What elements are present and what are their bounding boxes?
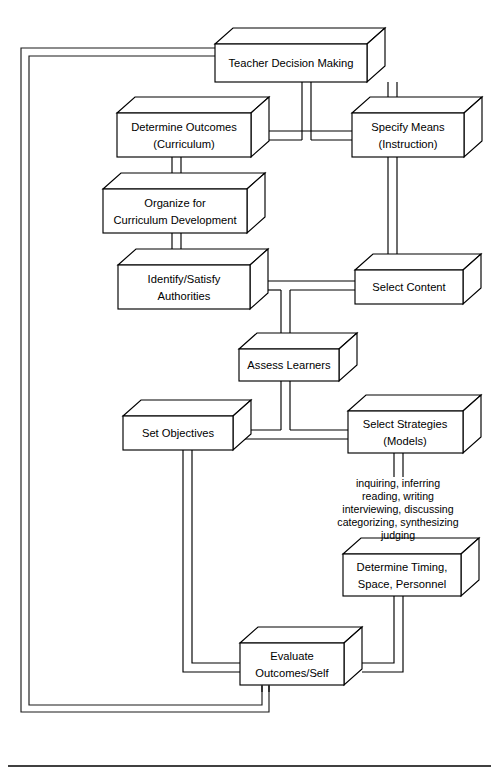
node-select-content[interactable]: Select Content	[355, 254, 481, 304]
node-top-face	[239, 333, 357, 349]
node-front-face	[117, 113, 251, 157]
node-label-line-2: Outcomes/Self	[255, 667, 329, 679]
annotation-line-3: interviewing, discussing	[342, 503, 453, 515]
node-label-line-2: Curriculum Development	[113, 214, 237, 226]
node-teacher-decision-making[interactable]: Teacher Decision Making	[215, 28, 385, 82]
node-top-face	[123, 400, 251, 416]
set-objectives-to-evaluate-connector	[183, 450, 240, 672]
node-evaluate-outcomes[interactable]: Evaluate Outcomes/Self	[240, 627, 362, 685]
assess-learners-down-connector	[281, 381, 290, 430]
node-top-face	[240, 627, 362, 643]
determine-timing-to-evaluate-connector	[362, 596, 403, 672]
node-top-face	[117, 97, 269, 113]
node-top-face	[352, 97, 482, 113]
node-label-line-1: Evaluate	[270, 650, 314, 662]
strategy-examples-annotation: inquiring, inferring reading, writing in…	[337, 477, 458, 541]
node-label-line-2: Space, Personnel	[358, 578, 446, 590]
node-label-line-2: (Models)	[383, 435, 427, 447]
node-label-line-1: Assess Learners	[247, 359, 331, 371]
node-label-line-1: Organize for	[144, 197, 206, 209]
node-label-line-1: Specify Means	[371, 121, 445, 133]
set-objectives-down-line-b	[192, 450, 240, 663]
node-set-objectives[interactable]: Set Objectives	[123, 400, 251, 450]
node-label-line-1: Set Objectives	[142, 427, 215, 439]
node-label-line-2: Authorities	[158, 290, 211, 302]
evaluate-bottom-stub	[262, 685, 269, 692]
node-assess-learners[interactable]: Assess Learners	[239, 333, 357, 381]
node-top-face	[103, 173, 265, 189]
node-label-line-1: Determine Timing,	[357, 561, 448, 573]
flowchart-svg: Teacher Decision Making Determine Outcom…	[0, 0, 499, 783]
flowchart-diagram: Teacher Decision Making Determine Outcom…	[0, 0, 499, 783]
annotation-line-1: inquiring, inferring	[356, 477, 440, 489]
node-determine-outcomes[interactable]: Determine Outcomes (Curriculum)	[117, 97, 269, 157]
node-top-face	[355, 254, 481, 270]
annotation-line-5: judging	[380, 529, 415, 541]
determine-timing-down-line-a	[362, 596, 394, 663]
determine-timing-down-line-b	[362, 596, 403, 672]
node-front-face	[118, 265, 250, 309]
node-label-line-1: Identify/Satisfy	[148, 273, 221, 285]
annotation-line-4: categorizing, synthesizing	[337, 516, 458, 528]
node-determine-timing[interactable]: Determine Timing, Space, Personnel	[343, 538, 479, 596]
node-front-face	[103, 189, 247, 233]
node-label-line-2: (Instruction)	[378, 138, 437, 150]
node-label-line-1: Select Content	[372, 281, 446, 293]
node-specify-means[interactable]: Specify Means (Instruction)	[352, 97, 482, 157]
node-organize-curriculum[interactable]: Organize for Curriculum Development	[103, 173, 265, 233]
node-front-face	[352, 113, 464, 157]
node-top-face	[118, 249, 268, 265]
node-label-line-1: Select Strategies	[363, 418, 448, 430]
specify-means-down-connector	[388, 157, 397, 270]
node-label-line-2: (Curriculum)	[153, 138, 215, 150]
node-identify-authorities[interactable]: Identify/Satisfy Authorities	[118, 249, 268, 309]
node-top-face	[215, 28, 385, 44]
node-label-line-1: Determine Outcomes	[131, 121, 237, 133]
node-select-strategies[interactable]: Select Strategies (Models)	[348, 395, 481, 453]
node-label-line-1: Teacher Decision Making	[229, 57, 354, 69]
node-top-face	[348, 395, 481, 411]
annotation-line-2: reading, writing	[362, 490, 434, 502]
